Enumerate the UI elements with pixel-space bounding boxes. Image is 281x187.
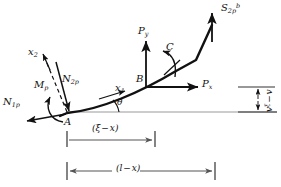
- label-force-N2p: N2p: [62, 74, 79, 85]
- label-axis-x2: x2: [28, 47, 38, 58]
- label-force-Py: Py: [138, 26, 148, 37]
- label-force-S2pb: S2pb: [221, 3, 240, 14]
- label-axis-x1: x1: [115, 83, 125, 94]
- label-couple-C: C: [166, 42, 174, 52]
- free-body-diagram-figure: N1p N2p Mp x2 x1 Py Px C S2pb A B θ (ξ −…: [0, 0, 281, 187]
- axis-arrow-x2: [43, 54, 50, 70]
- moment-arrow-Mp: [48, 97, 63, 122]
- label-force-N1p: N1p: [3, 97, 20, 108]
- label-force-Px: Px: [202, 79, 212, 90]
- force-arrow-N2p: [56, 62, 69, 111]
- label-moment-Mp: Mp: [34, 80, 48, 91]
- beam-curve: [60, 25, 212, 116]
- label-point-A: A: [64, 117, 71, 127]
- label-dimension-l-minus-x: (l − x): [116, 164, 140, 173]
- label-dimension-xi-minus-x: (ξ − x): [92, 124, 118, 133]
- label-angle-theta: θ: [117, 98, 122, 107]
- label-dimension-v-xi-minus-v: vξ − v: [265, 89, 274, 112]
- force-arrow-N1p: [27, 114, 66, 121]
- label-point-B: B: [136, 74, 143, 84]
